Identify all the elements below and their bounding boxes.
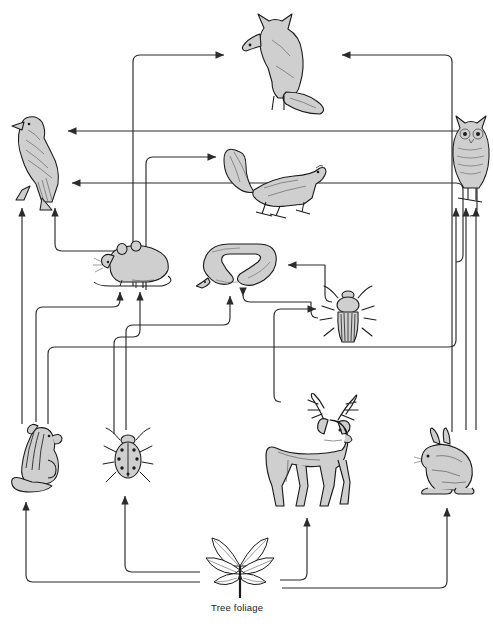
organism-owl[interactable]	[448, 112, 493, 206]
organism-tree-foliage[interactable]	[196, 532, 284, 600]
organism-deer[interactable]	[258, 390, 376, 514]
link-ladybug-to-snake	[126, 296, 230, 430]
link-ladybug-to-mouse	[114, 292, 140, 434]
organism-snake[interactable]	[196, 236, 288, 296]
organism-beetle[interactable]	[318, 284, 378, 348]
organism-fox[interactable]	[228, 6, 340, 118]
link-beetle-to-snake-2	[243, 295, 318, 318]
organism-hawk[interactable]	[2, 110, 78, 212]
link-rabbit-to-fox	[342, 55, 452, 432]
link-foliage-to-deer	[280, 518, 307, 580]
link-foliage-to-chipmunk	[26, 502, 200, 582]
organism-mouse[interactable]	[92, 236, 182, 292]
organism-ladybug[interactable]	[102, 426, 154, 490]
link-deer-to-beetle	[274, 309, 316, 402]
link-foliage-to-ladybug	[125, 496, 200, 572]
organism-squirrel[interactable]	[216, 138, 332, 222]
link-chipmunk-to-mouse	[36, 292, 120, 422]
organism-rabbit[interactable]	[412, 426, 480, 504]
organism-chipmunk[interactable]	[8, 420, 68, 496]
tree-foliage-label: Tree foliage	[211, 602, 263, 613]
food-web-diagram: Tree foliage	[0, 0, 493, 627]
